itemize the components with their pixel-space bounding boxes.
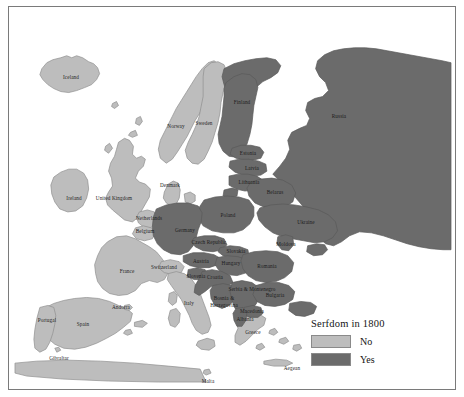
region-greece-crete <box>264 359 293 366</box>
region-iceland <box>40 56 100 93</box>
region-corsica <box>168 292 177 306</box>
region-greece-islands-2 <box>279 337 289 344</box>
region-balearics <box>134 320 147 327</box>
region-greece-islands-1 <box>269 328 278 335</box>
legend-title: Serfdom in 1800 <box>311 318 441 329</box>
region-belgium <box>132 226 155 241</box>
region-denmark-zealand <box>184 192 195 204</box>
region-malta <box>203 369 211 375</box>
region-romania <box>241 251 294 283</box>
region-hebrides <box>105 143 113 153</box>
region-balearics-2 <box>123 329 132 335</box>
map-frame: .no { fill: #bdbdbd; stroke: #8f8f8f; st… <box>8 6 456 390</box>
region-poland <box>198 196 254 233</box>
region-estonia <box>230 145 264 160</box>
legend-label-no: No <box>360 336 372 347</box>
region-faroe <box>112 102 119 109</box>
region-france <box>95 236 169 296</box>
region-north-africa-coast <box>15 360 206 382</box>
region-ireland <box>51 169 89 212</box>
region-andorra <box>124 304 132 310</box>
legend-row-yes: Yes <box>311 353 441 366</box>
legend-label-yes: Yes <box>360 354 375 365</box>
map-legend: Serfdom in 1800 No Yes <box>311 318 441 371</box>
region-orkney <box>128 130 137 137</box>
legend-swatch-no <box>311 335 351 348</box>
region-denmark-jutland <box>163 181 180 206</box>
serfdom-map-figure: .no { fill: #bdbdbd; stroke: #8f8f8f; st… <box>0 0 464 397</box>
region-moldova <box>277 235 294 251</box>
region-greece-islands-4 <box>256 343 265 350</box>
region-portugal <box>34 305 56 352</box>
region-germany <box>152 203 202 255</box>
region-united-kingdom <box>106 138 151 222</box>
region-latvia <box>229 159 267 176</box>
region-bulgaria <box>253 283 295 307</box>
region-turkey-thrace <box>289 301 317 316</box>
region-italy-sardinia <box>168 308 180 327</box>
legend-swatch-yes <box>311 353 351 366</box>
region-greece-islands-3 <box>293 344 302 351</box>
region-crimea <box>307 244 328 256</box>
legend-row-no: No <box>311 335 441 348</box>
region-shetland <box>135 116 142 125</box>
region-gibraltar <box>55 347 61 352</box>
region-italy-sicily <box>196 338 215 350</box>
